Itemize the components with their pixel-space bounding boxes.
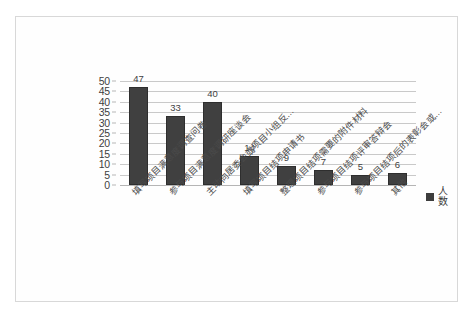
chart-frame: 50454035302520151050 473340149756 填写项目满意… [15, 16, 458, 302]
y-axis-tick-mark [112, 81, 116, 82]
bar-value-label: 47 [133, 74, 144, 84]
gridline [120, 123, 416, 124]
y-axis-tick-mark [112, 143, 116, 144]
y-axis-tick-mark [112, 185, 116, 186]
y-axis-tick-mark [112, 164, 116, 165]
gridline [120, 81, 416, 82]
bar-value-label: 40 [207, 89, 218, 99]
y-axis: 50454035302520151050 [76, 73, 116, 193]
bar[interactable] [129, 87, 148, 185]
gridline [120, 185, 416, 186]
y-axis-tick-mark [112, 133, 116, 134]
y-axis-tick-mark [112, 112, 116, 113]
bar-value-label: 33 [170, 103, 181, 113]
gridline [120, 102, 416, 103]
chart-legend: 人数 [426, 187, 457, 207]
gridline [120, 112, 416, 113]
y-axis-tick-mark [112, 91, 116, 92]
legend-label-renshu: 人数 [438, 187, 457, 207]
gridline [120, 91, 416, 92]
legend-swatch-renshu [426, 193, 434, 201]
bar-value-label: 5 [358, 162, 363, 172]
y-axis-tick-mark [112, 153, 116, 154]
y-axis-tick-mark [112, 174, 116, 175]
y-axis-tick-mark [112, 101, 116, 102]
y-axis-tick-label: 0 [104, 180, 110, 191]
y-axis-tick-mark [112, 122, 116, 123]
